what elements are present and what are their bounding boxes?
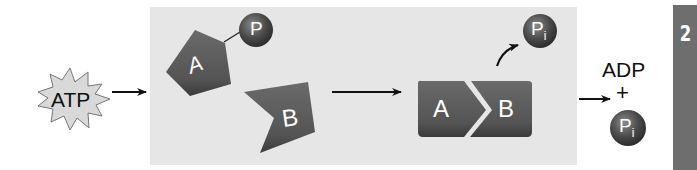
phosphate-label: P	[250, 18, 263, 40]
step-sidebar: 2	[673, 5, 697, 170]
byproduct-phosphate-letter: P	[619, 115, 632, 136]
byproduct-phosphate-label: Pi	[619, 115, 634, 140]
arrow-release-phosphate	[497, 45, 518, 66]
plus-sign: +	[616, 80, 629, 106]
diagram-stage: ATP A P B A B Pi ADP + Pi 2	[0, 0, 697, 170]
complex-b-label: B	[498, 95, 514, 123]
complex-a-label: A	[433, 95, 449, 123]
molecule-b-shape	[244, 82, 315, 153]
step-number: 2	[676, 21, 694, 46]
byproduct-phosphate-subscript: i	[632, 126, 635, 140]
adp-label: ADP	[602, 58, 645, 82]
released-phosphate-letter: P	[531, 18, 544, 39]
atp-label: ATP	[51, 88, 90, 112]
released-phosphate-subscript: i	[544, 29, 547, 43]
released-phosphate-label: Pi	[531, 18, 546, 43]
diagram-graphics	[0, 0, 697, 170]
